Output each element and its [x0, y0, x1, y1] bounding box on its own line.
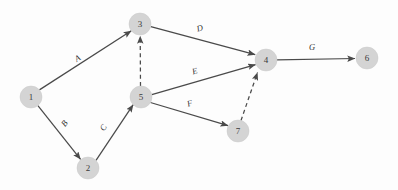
node-3[interactable]: 3	[129, 13, 151, 35]
network-diagram: 1234567 ABCDEFG	[0, 0, 398, 190]
edge-n4-to-n6	[277, 59, 355, 60]
node-2[interactable]: 2	[77, 157, 99, 179]
edge-label-e: E	[190, 65, 199, 77]
edge-n2-to-n5	[96, 105, 133, 161]
edge-label-g: G	[309, 42, 315, 52]
node-label-7: 7	[236, 126, 241, 136]
node-label-2: 2	[86, 163, 91, 173]
edges-layer	[38, 27, 355, 161]
edge-n1-to-n2	[38, 106, 81, 160]
node-label-6: 6	[365, 53, 370, 63]
node-7[interactable]: 7	[227, 120, 249, 142]
edge-label-d: D	[195, 22, 205, 34]
node-1[interactable]: 1	[20, 86, 42, 108]
node-label-4: 4	[264, 55, 269, 65]
node-4[interactable]: 4	[255, 49, 277, 71]
nodes-layer: 1234567	[20, 13, 378, 179]
edge-label-c: C	[97, 122, 109, 133]
node-label-1: 1	[29, 92, 34, 102]
node-5[interactable]: 5	[130, 86, 152, 108]
edge-label-b: B	[59, 118, 70, 128]
edge-n5-to-n4	[152, 65, 256, 95]
edge-n7-to-n4	[241, 73, 258, 121]
edge-labels-layer: ABCDEFG	[59, 22, 315, 132]
node-6[interactable]: 6	[356, 47, 378, 69]
edge-label-f: F	[185, 97, 195, 109]
edge-n1-to-n3	[39, 31, 131, 90]
graph-canvas: 1234567 ABCDEFG	[0, 0, 398, 190]
node-label-5: 5	[139, 92, 144, 102]
node-label-3: 3	[138, 19, 143, 29]
